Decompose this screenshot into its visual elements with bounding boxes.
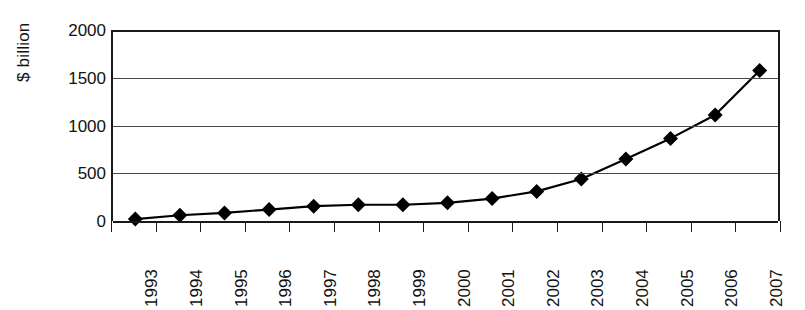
x-axis-tick-label: 1996 (276, 231, 296, 307)
gridline (113, 30, 778, 32)
y-axis-tick-label: 1500 (52, 70, 106, 87)
gridline (113, 126, 778, 127)
data-point-marker (217, 205, 232, 220)
data-point-marker (485, 191, 500, 206)
x-axis-tick-label: 1999 (410, 231, 430, 307)
data-point-marker (663, 131, 678, 146)
line-chart: $ billion 0500100015002000 1993199419951… (0, 0, 805, 310)
x-axis-tick-label: 2006 (722, 231, 742, 307)
gridline (113, 173, 778, 174)
x-axis-tick-label: 2000 (455, 231, 475, 307)
x-axis-tick-label: 1993 (142, 231, 162, 307)
gridline (113, 78, 778, 79)
x-axis-tick-label: 2004 (633, 231, 653, 307)
x-axis-tick-label: 2007 (767, 231, 787, 307)
y-axis-tick-label: 2000 (52, 22, 106, 39)
x-axis-tick-label: 1997 (321, 231, 341, 307)
x-axis-tick-label: 1998 (365, 231, 385, 307)
x-axis-tick-label: 2001 (499, 231, 519, 307)
data-point-marker (529, 184, 544, 199)
x-axis-tick-label: 1994 (187, 231, 207, 307)
data-point-marker (440, 195, 455, 210)
x-axis-tick-labels: 1993199419951996199719981999200020012002… (111, 233, 780, 310)
x-axis-tick-label: 2005 (678, 231, 698, 307)
data-point-marker (262, 202, 277, 217)
data-point-marker (395, 197, 410, 212)
x-axis-tick-label: 1995 (232, 231, 252, 307)
x-axis-tick-label: 2003 (588, 231, 608, 307)
data-point-marker (618, 151, 633, 166)
y-axis-tick-labels: 0500100015002000 (52, 0, 106, 310)
plot-area (111, 30, 780, 221)
data-point-marker (351, 197, 366, 212)
y-axis-tick-label: 1000 (52, 118, 106, 135)
y-axis-tick-label: 0 (52, 213, 106, 230)
y-axis-title: $ billion (14, 0, 36, 82)
x-axis-tick (111, 221, 112, 232)
y-axis-tick-label: 500 (52, 165, 106, 182)
x-axis-tick-label: 2002 (544, 231, 564, 307)
data-point-marker (306, 199, 321, 214)
